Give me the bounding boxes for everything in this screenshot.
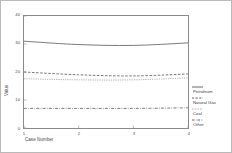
- plot-area: [23, 15, 189, 129]
- series-line-petroleum: [24, 41, 188, 45]
- legend-label: Natural Gas: [193, 100, 216, 105]
- x-tick-label: 1: [19, 131, 29, 136]
- y-tick-label: 10: [8, 97, 20, 102]
- series-lines: [24, 16, 188, 128]
- legend-item-other[interactable]: Other: [192, 117, 232, 128]
- x-tick-label: 2: [74, 131, 84, 136]
- legend-label: Coal: [193, 111, 202, 116]
- x-tick-label: 4: [184, 131, 194, 136]
- y-tick-label: 40: [8, 12, 20, 17]
- y-tick-label: 30: [8, 40, 20, 45]
- x-tick-label: 3: [129, 131, 139, 136]
- legend-item-natural-gas[interactable]: Natural Gas: [192, 95, 232, 106]
- legend-label: Petroleum: [193, 89, 213, 94]
- legend: Petroleum Natural Gas Coal Other: [192, 84, 232, 128]
- legend-label: Other: [193, 122, 204, 127]
- legend-item-petroleum[interactable]: Petroleum: [192, 84, 232, 95]
- x-axis-title: Case Number: [25, 137, 53, 142]
- series-line-coal: [24, 78, 188, 80]
- legend-item-coal[interactable]: Coal: [192, 106, 232, 117]
- series-line-natural-gas: [24, 72, 188, 76]
- chart-figure: 40 30 20 10 0 1 2 3 4 Value Case Number …: [0, 0, 232, 153]
- y-tick-label: 20: [8, 69, 20, 74]
- y-axis-title: Value: [4, 85, 9, 96]
- series-line-other: [24, 108, 188, 109]
